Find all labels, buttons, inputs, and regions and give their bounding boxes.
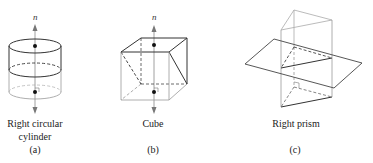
section-front-edge	[281, 58, 332, 68]
cube-cut-visible	[169, 52, 187, 84]
figure-cylinder: n Right circular cylinder (a)	[7, 12, 63, 156]
center-dot-bottom	[152, 90, 156, 94]
normal-label-a: n	[33, 12, 38, 22]
figure-cube: n Cube (b)	[121, 12, 187, 156]
arrow-down-icon	[33, 107, 38, 114]
prism-bottom-front-edge	[281, 97, 332, 107]
center-dot-top	[152, 43, 156, 47]
tag-a: (a)	[29, 144, 40, 156]
section-back-right-edge	[294, 47, 332, 58]
prism-top-triangle	[281, 10, 332, 30]
cube-cut-hidden	[121, 52, 141, 84]
caption-c: Right prism	[272, 118, 320, 129]
arrow-up-icon	[152, 25, 157, 32]
diagram-canvas: n Right circular cylinder (a) n	[0, 0, 373, 163]
prism-bottom-back-right	[294, 87, 332, 97]
arrow-down-icon	[152, 107, 157, 114]
tag-c: (c)	[289, 144, 300, 156]
center-dot-bottom	[33, 90, 37, 94]
figure-prism: Right prism (c)	[245, 10, 362, 156]
tag-b: (b)	[147, 144, 159, 156]
center-dot-top	[33, 44, 37, 48]
section-back-left-edge	[281, 47, 294, 68]
normal-label-b: n	[152, 12, 157, 22]
arrow-up-icon	[33, 24, 38, 31]
prism-bottom-back-left	[281, 87, 294, 107]
caption-b: Cube	[142, 118, 164, 129]
caption-a-line2: cylinder	[19, 131, 52, 142]
cube-hidden-edge-floor	[121, 84, 141, 100]
cube-bottom-right-edge	[169, 84, 187, 100]
caption-a-line1: Right circular	[7, 118, 63, 129]
